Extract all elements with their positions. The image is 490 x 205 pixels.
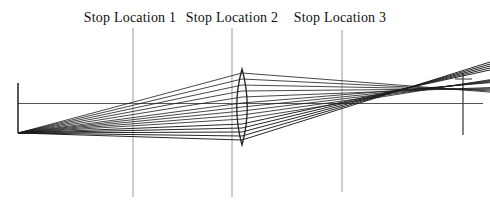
stop-location-2-label: Stop Location 2 (186, 10, 278, 26)
stop-location-1-label: Stop Location 1 (84, 10, 176, 26)
stop-location-3-label: Stop Location 3 (294, 10, 386, 26)
lower-bundle-ray-3 (18, 66, 490, 133)
optical-stop-location-diagram: Stop Location 1 Stop Location 2 Stop Loc… (0, 0, 490, 205)
ray-trace-canvas (0, 0, 490, 205)
